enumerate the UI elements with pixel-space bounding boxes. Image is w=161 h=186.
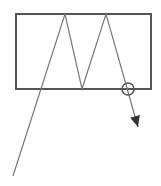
zigzag-ray-path (13, 14, 138, 176)
arrowhead-icon (130, 115, 140, 127)
reflection-diagram (0, 0, 161, 186)
rectangular-medium (16, 14, 151, 89)
